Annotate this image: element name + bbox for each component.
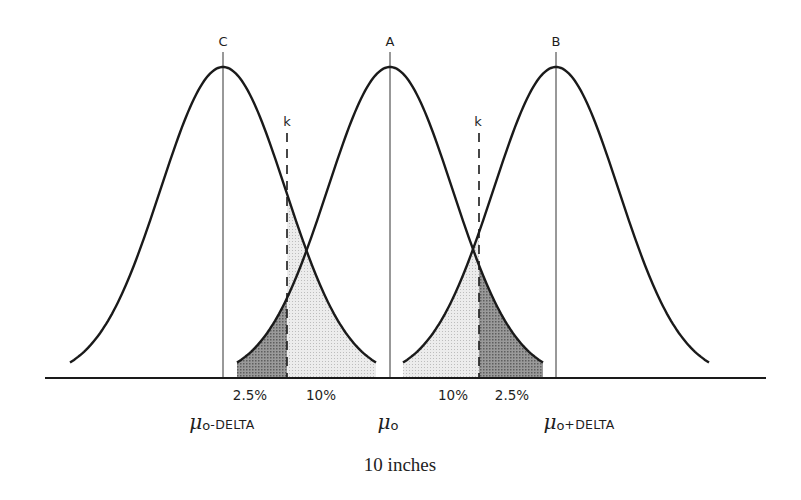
delta-text: +DELTA bbox=[564, 417, 614, 432]
distribution-diagram bbox=[0, 0, 801, 500]
mu-symbol: μ bbox=[189, 410, 202, 434]
critical-value-label-left: k bbox=[283, 114, 291, 129]
subscript: o bbox=[556, 418, 564, 433]
area-label-right-beta: 10% bbox=[438, 387, 468, 403]
curve-label-a: A bbox=[386, 34, 395, 49]
delta-text: -DELTA bbox=[210, 417, 254, 432]
curve-label-c: C bbox=[218, 34, 227, 49]
area-label-right-tail: 2.5% bbox=[495, 387, 529, 403]
subscript: o bbox=[202, 418, 210, 433]
beta-region-right bbox=[403, 232, 479, 378]
axis-label-mu0-plus-delta: μo+DELTA bbox=[543, 410, 614, 434]
caption: 10 inches bbox=[364, 454, 436, 476]
curve-label-b: B bbox=[552, 34, 561, 49]
mu-symbol: μ bbox=[378, 410, 391, 434]
mu-symbol: μ bbox=[543, 410, 556, 434]
subscript: o bbox=[391, 418, 399, 433]
beta-region-left bbox=[287, 194, 376, 378]
axis-label-mu0: μo bbox=[378, 410, 399, 434]
area-label-left-beta: 10% bbox=[306, 387, 336, 403]
critical-value-label-right: k bbox=[474, 114, 482, 129]
axis-label-mu0-minus-delta: μo-DELTA bbox=[189, 410, 254, 434]
alpha-region-right bbox=[479, 265, 543, 378]
area-label-left-tail: 2.5% bbox=[233, 387, 267, 403]
